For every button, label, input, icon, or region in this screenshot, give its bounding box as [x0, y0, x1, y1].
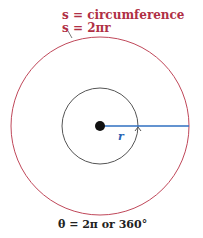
circumference-label: s = circumference: [62, 8, 185, 22]
diagram-graphics: [0, 0, 203, 238]
center-dot: [95, 121, 105, 131]
circle-diagram: s = circumference s = 2πr r θ = 2π or 36…: [0, 0, 203, 238]
angle-label: θ = 2π or 360°: [58, 218, 147, 231]
circumference-formula: s = 2πr: [62, 21, 111, 35]
radius-label: r: [118, 130, 124, 143]
